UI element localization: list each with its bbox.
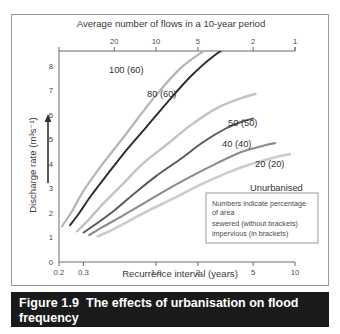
series-label: 40 (40) [222, 139, 251, 149]
y-tick-label: 7 [49, 86, 53, 95]
y-tick-label: 2 [49, 209, 53, 218]
annotation-line-4: impervious (in brackets) [212, 229, 288, 238]
figure-caption-spacer [79, 296, 86, 310]
figure-caption-label: Figure 1.9 [19, 296, 79, 310]
x-tick-label: 5 [251, 268, 256, 277]
series-label: 100 (60) [109, 65, 144, 75]
y-axis-arrow [45, 114, 52, 183]
top-tick-label: 5 [196, 37, 200, 46]
annotation-line-1: Numbers indicate percentage [212, 199, 306, 208]
figure-caption: Figure 1.9 The effects of urbanisation o… [11, 292, 329, 327]
left-axis: 012345678 [49, 51, 59, 267]
series-label: 20 (20) [255, 159, 284, 169]
series-labels: 100 (60)80 (60)50 (50)40 (40)20 (20)Unur… [109, 65, 303, 193]
y-axis-title: Discharge rate (m³s⁻¹) [27, 117, 38, 213]
flood-frequency-chart: Average number of flows in a 10-year per… [12, 15, 330, 287]
y-tick-label: 4 [49, 160, 54, 169]
y-tick-label: 8 [49, 62, 53, 71]
y-tick-label: 3 [49, 184, 53, 193]
x-axis-title: Recurrence interval (years) [122, 268, 238, 279]
y-tick-label: 1 [49, 233, 53, 242]
series-label: 50 (50) [228, 118, 257, 128]
top-tick-label: 20 [110, 37, 118, 46]
series-label: 80 (60) [147, 89, 176, 99]
top-tick-label: 10 [152, 37, 160, 46]
figure-panel: Average number of flows in a 10-year per… [11, 14, 329, 286]
annotation-line-2: of area [212, 208, 234, 217]
annotation-box: Numbers indicate percentage of area sewe… [206, 193, 318, 243]
x-tick-label: 0.2 [54, 268, 65, 277]
series-label: Unurbanised [250, 183, 303, 193]
annotation-line-3: sewered (without brackets) [212, 219, 298, 228]
x-tick-label: 10 [291, 268, 300, 277]
top-tick-label: 1 [293, 37, 297, 46]
chart-plot-area: Average number of flows in a 10-year per… [12, 15, 330, 287]
top-axis: 2010521 [59, 37, 297, 51]
top-tick-label: 2 [251, 37, 255, 46]
top-axis-title: Average number of flows in a 10-year per… [77, 18, 266, 29]
y-tick-label: 5 [49, 135, 54, 144]
x-tick-label: 0.3 [78, 268, 89, 277]
y-tick-label: 0 [49, 258, 54, 267]
figure-root: Average number of flows in a 10-year per… [0, 0, 340, 334]
